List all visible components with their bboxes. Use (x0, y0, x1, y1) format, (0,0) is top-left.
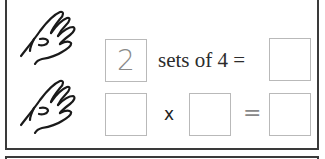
hand-icon (18, 78, 80, 134)
hand-icon (18, 9, 80, 65)
sets-count-box[interactable]: 2 (105, 39, 147, 82)
row2-answer-box[interactable] (269, 93, 311, 136)
multiplier-box[interactable] (189, 93, 231, 136)
multiply-sign: x (164, 104, 174, 124)
next-worksheet-frame (5, 156, 319, 159)
multiplicand-box[interactable] (105, 93, 147, 136)
sets-of-text: sets of 4 = (158, 48, 245, 73)
equals-sign: = (243, 100, 261, 125)
sets-count-value: 2 (117, 47, 135, 75)
row1-answer-box[interactable] (269, 38, 311, 81)
